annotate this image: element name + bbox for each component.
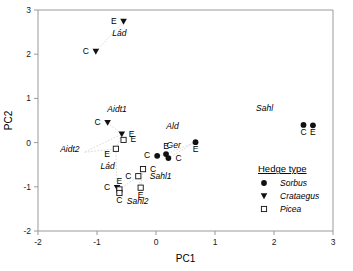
group-label: Ger	[167, 140, 182, 150]
legend-marker-sorbus[interactable]	[261, 180, 267, 186]
legend-entry-label: Picea	[280, 204, 302, 214]
data-point-label: C	[104, 182, 110, 192]
y-tick-label: 3	[26, 5, 31, 15]
legend-entry-label: Crataegus	[280, 191, 320, 201]
data-point-sorbus[interactable]	[154, 153, 160, 159]
y-tick-label: -2	[23, 226, 31, 236]
data-point-label: C	[144, 150, 150, 160]
group-label: Aidt2	[59, 144, 80, 154]
data-point-picea[interactable]	[136, 174, 141, 179]
x-axis-title: PC1	[176, 253, 196, 264]
y-axis-title: PC2	[3, 110, 14, 130]
legend-marker-crataegus[interactable]	[261, 193, 268, 199]
data-point-label: C	[83, 46, 89, 56]
legend-marker-picea[interactable]	[261, 206, 266, 211]
scatter-plot-figure: -2-10123-2-10123PC1PC2LádAidt1Aidt2LádSa…	[0, 0, 353, 271]
group-label: Ald	[165, 121, 179, 131]
data-point-label: C	[175, 153, 181, 163]
data-point-label: C	[125, 171, 131, 181]
group-label: Lád	[112, 28, 126, 38]
data-point-label: E	[310, 127, 316, 137]
data-point-label: C	[150, 164, 156, 174]
group-label: Lád	[101, 161, 115, 171]
data-point-crataegus[interactable]	[93, 49, 100, 55]
data-point-label: E	[131, 134, 137, 144]
data-point-label: E	[111, 16, 117, 26]
legend-entry-label: Sorbus	[280, 178, 308, 188]
data-point-label: C	[116, 195, 122, 205]
y-tick-label: -1	[23, 182, 31, 192]
x-tick-label: 0	[154, 237, 159, 247]
data-point-crataegus[interactable]	[120, 19, 127, 25]
legend-title: Hedge type	[258, 163, 307, 174]
x-tick-label: 1	[213, 237, 218, 247]
x-tick-label: -2	[34, 237, 42, 247]
data-point-picea[interactable]	[113, 146, 118, 151]
data-point-sorbus[interactable]	[165, 155, 171, 161]
y-tick-label: 2	[26, 49, 31, 59]
y-tick-label: 0	[26, 138, 31, 148]
data-point-label: E	[117, 176, 123, 186]
plot-canvas: -2-10123-2-10123PC1PC2LádAidt1Aidt2LádSa…	[0, 0, 353, 271]
data-point-label: E	[193, 144, 199, 154]
group-label: Aidt1	[106, 104, 127, 114]
data-point-label: E	[138, 190, 144, 200]
data-point-picea[interactable]	[121, 137, 126, 142]
data-point-label: E	[104, 149, 110, 159]
data-point-picea[interactable]	[140, 167, 145, 172]
y-tick-label: 1	[26, 93, 31, 103]
data-point-label: C	[94, 117, 100, 127]
x-tick-label: -1	[93, 237, 101, 247]
group-label: Sahl	[256, 103, 274, 113]
x-tick-label: 3	[331, 237, 336, 247]
data-point-crataegus[interactable]	[118, 131, 125, 137]
data-point-label: E	[163, 141, 169, 151]
data-point-label: C	[300, 127, 306, 137]
x-tick-label: 2	[272, 237, 277, 247]
legend: Hedge typeSorbusCrataegusPicea	[258, 163, 320, 214]
